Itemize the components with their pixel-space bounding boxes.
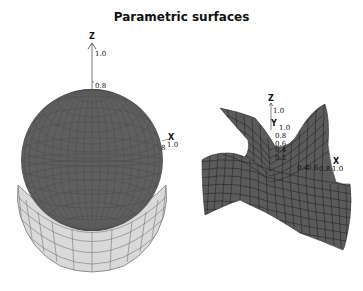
left-x-tick-1: 8	[161, 144, 165, 152]
right-z-tick-2: 0.8	[275, 132, 286, 140]
right-y-tick-1: 1.0	[279, 124, 290, 132]
plot-canvas: Z 1.0 0.8 X 8 1.0	[0, 0, 363, 291]
left-x-tick-2: 1.0	[167, 141, 178, 149]
right-y-label: Y	[270, 119, 277, 128]
right-z-tick-5: 0.2	[275, 154, 286, 162]
left-z-tick-2: 0.8	[95, 82, 106, 90]
right-z-tick-4: 0.4	[275, 146, 287, 154]
right-z-label: Z	[268, 94, 274, 103]
left-z-label: Z	[89, 32, 95, 41]
right-x-label: X	[333, 157, 340, 166]
right-x-tick-2: 0.6	[307, 164, 319, 172]
right-x-tick-4: 1.0	[332, 165, 343, 173]
left-z-axis: Z 1.0 0.8	[88, 32, 106, 90]
left-plot: Z 1.0 0.8 X 8 1.0	[17, 32, 178, 276]
left-x-axis: X 8 1.0	[161, 133, 178, 152]
right-y-axis: Y 1.0	[270, 119, 290, 132]
right-plot: Z 1.0 0.8 0.6 0.4 0.2 Y 1.0 0.4 0.6 0.8 …	[200, 94, 352, 250]
right-x-tick-3: 0.8	[319, 165, 330, 173]
left-z-tick-1: 1.0	[95, 50, 106, 58]
right-z-tick-1: 1.0	[273, 107, 284, 115]
